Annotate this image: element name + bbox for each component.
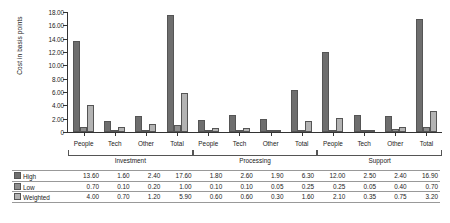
x-axis-tick-label: People xyxy=(317,140,348,147)
bar-group xyxy=(162,12,193,132)
table-cell: 1.00 xyxy=(162,181,193,192)
table-cell: 0.05 xyxy=(347,181,378,192)
x-axis-tick-label: People xyxy=(68,140,99,147)
table-cell: 0.60 xyxy=(224,192,255,203)
x-axis-tick-label: Other xyxy=(380,140,411,147)
bar-weighted xyxy=(430,111,437,132)
table-cell: 0.20 xyxy=(132,181,163,192)
legend-label: Low xyxy=(23,183,35,190)
table-cell: 2.60 xyxy=(224,171,255,182)
y-axis-tick-label: 12.00 xyxy=(49,49,65,56)
bar-high xyxy=(167,15,174,132)
bar-weighted xyxy=(305,121,312,132)
bar-high xyxy=(104,121,111,132)
bar-weighted xyxy=(274,130,281,132)
table-cell: 1.60 xyxy=(285,192,316,203)
bracket-line xyxy=(68,150,193,156)
legend-row-header: Low xyxy=(12,181,70,192)
group-label: Investment xyxy=(68,157,193,164)
table-cell: 1.60 xyxy=(101,171,132,182)
x-axis-tick-mark xyxy=(426,132,427,136)
x-axis-tick-label: Tech xyxy=(99,140,130,147)
x-axis-tick-mark xyxy=(115,132,116,136)
bar-high xyxy=(73,41,80,132)
x-axis-tick-mark xyxy=(177,132,178,136)
bar-high xyxy=(229,115,236,132)
x-axis-tick-mark xyxy=(364,132,365,136)
table-cell: 0.40 xyxy=(378,181,409,192)
bar-group xyxy=(317,12,348,132)
table-cell: 12.00 xyxy=(316,171,347,182)
bar-group xyxy=(255,12,286,132)
table-cell: 0.70 xyxy=(70,181,101,192)
bar-high xyxy=(322,52,329,132)
table-row: High13.601.602.4017.601.802.601.906.3012… xyxy=(12,171,440,182)
bar-weighted xyxy=(243,128,250,132)
table-cell: 13.60 xyxy=(70,171,101,182)
legend-label: Weighted xyxy=(23,194,50,201)
bar-high xyxy=(354,115,361,132)
table-cell: 0.70 xyxy=(409,181,440,192)
table-cell: 0.60 xyxy=(194,192,225,203)
y-axis-tick-label: 18.00 xyxy=(49,9,65,16)
legend-row-header: High xyxy=(12,171,70,182)
bar-groups xyxy=(68,12,442,132)
bar-high xyxy=(198,120,205,132)
data-table: High13.601.602.4017.601.802.601.906.3012… xyxy=(12,170,440,203)
group-bracket: Investment xyxy=(68,150,193,166)
x-axis-tick-label: Total xyxy=(162,140,193,147)
bar-weighted xyxy=(181,93,188,132)
x-axis-group-brackets: InvestmentProcessingSupport xyxy=(68,150,442,166)
bar-group xyxy=(224,12,255,132)
legend-row-header: Weighted xyxy=(12,192,70,203)
x-axis-tick-label: Tech xyxy=(224,140,255,147)
table-cell: 1.80 xyxy=(194,171,225,182)
bar-group xyxy=(99,12,130,132)
table-cell: 2.10 xyxy=(316,192,347,203)
bar-weighted xyxy=(149,124,156,132)
x-axis-tick-mark xyxy=(84,132,85,136)
y-axis-tick-label: 14.00 xyxy=(49,35,65,42)
bracket-line xyxy=(317,150,442,156)
legend-swatch-icon xyxy=(14,193,21,200)
table-cell: 1.20 xyxy=(132,192,163,203)
bar-high xyxy=(416,19,423,132)
group-label: Processing xyxy=(193,157,318,164)
bar-group xyxy=(349,12,380,132)
table-cell: 4.00 xyxy=(70,192,101,203)
bar-weighted xyxy=(399,127,406,132)
table-cell: 0.25 xyxy=(285,181,316,192)
table-cell: 2.50 xyxy=(347,171,378,182)
x-axis-tick-mark xyxy=(333,132,334,136)
bar-high xyxy=(260,119,267,132)
x-axis-tick-mark xyxy=(239,132,240,136)
x-axis-tick-mark xyxy=(271,132,272,136)
x-axis-tick-label: Total xyxy=(286,140,317,147)
legend-swatch-icon xyxy=(14,172,21,179)
bar-low xyxy=(174,125,181,132)
plot-area: Cost in basis points 18.0016.0014.0012.0… xyxy=(0,6,450,138)
x-axis-tick-mark xyxy=(146,132,147,136)
legend-swatch-icon xyxy=(14,183,21,190)
legend-label: High xyxy=(23,173,36,180)
bar-weighted xyxy=(368,130,375,132)
bar-high xyxy=(291,90,298,132)
bar-high xyxy=(135,116,142,132)
table-cell: 2.40 xyxy=(132,171,163,182)
bar-group xyxy=(193,12,224,132)
bar-group xyxy=(130,12,161,132)
bar-group xyxy=(68,12,99,132)
table-row: Weighted4.000.701.205.900.600.600.301.60… xyxy=(12,192,440,203)
x-axis-category-labels: PeopleTechOtherTotalPeopleTechOtherTotal… xyxy=(68,140,442,147)
table-cell: 1.90 xyxy=(255,171,286,182)
x-axis-tick-label: People xyxy=(193,140,224,147)
table-cell: 3.20 xyxy=(409,192,440,203)
x-axis-tick-label: Tech xyxy=(349,140,380,147)
table-cell: 0.05 xyxy=(255,181,286,192)
table-cell: 0.10 xyxy=(101,181,132,192)
y-axis-tick-labels: 18.0016.0014.0012.0010.008.006.004.002.0… xyxy=(38,6,64,132)
table-cell: 0.70 xyxy=(101,192,132,203)
table-cell: 16.90 xyxy=(409,171,440,182)
bracket-line xyxy=(193,150,318,156)
bar-group xyxy=(380,12,411,132)
